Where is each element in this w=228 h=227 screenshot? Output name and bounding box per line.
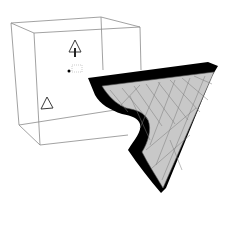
box-edge-back-bottom: [19, 110, 115, 125]
mesh-object[interactable]: [88, 62, 218, 193]
3d-viewport[interactable]: [0, 0, 228, 227]
pivot-frame: [72, 65, 82, 72]
box-edge-back-top: [11, 17, 140, 27]
box-edge-back-right: [101, 17, 103, 70]
box-edge-top-left: [11, 23, 34, 33]
box-edge-front-right: [140, 27, 141, 70]
box-edge-front-left: [34, 33, 40, 145]
box-edge-front-bottom: [40, 135, 128, 145]
scene-canvas[interactable]: [0, 0, 228, 227]
gizmo-lower[interactable]: [41, 97, 53, 109]
triangle-marker-icon[interactable]: [41, 97, 53, 109]
object-face: [102, 72, 214, 188]
gizmo-selected[interactable]: [69, 40, 81, 57]
pivot-handle[interactable]: [68, 65, 83, 73]
box-edge-front-top: [34, 27, 140, 33]
box-edge-bottom-left: [19, 125, 40, 145]
pivot-handle-icon[interactable]: [68, 70, 71, 73]
box-edge-back-left: [11, 23, 19, 125]
